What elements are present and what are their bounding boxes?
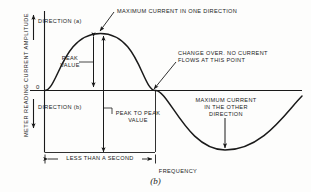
change-over-leader <box>154 62 176 89</box>
peak-value-label: PEAK VALUE <box>55 55 85 69</box>
max-current-other-direction-label: MAXIMUM CURRENT IN THE OTHER DIRECTION <box>186 97 266 117</box>
x-axis-label: FREQUENCY <box>150 168 206 175</box>
waveform-diagram <box>0 0 311 192</box>
less-than-a-second-label: LESS THAN A SECOND <box>58 155 142 162</box>
direction-a-label: DIRECTION (a) <box>38 18 82 25</box>
origin-zero-label: 0 <box>36 84 39 90</box>
figure-caption: (b) <box>0 176 311 186</box>
change-over-label: CHANGE OVER. NO CURRENT FLOWS AT THIS PO… <box>178 50 268 64</box>
max-current-one-leader <box>100 12 114 31</box>
direction-b-label: DIRECTION (b) <box>38 104 82 111</box>
figure-panel: METER READING CURRENT AMPLITUDE 0 DIRECT… <box>0 0 311 192</box>
max-current-one-direction-label: MAXIMUM CURRENT IN ONE DIRECTION <box>117 8 237 15</box>
y-axis-label: METER READING CURRENT AMPLITUDE <box>23 5 29 145</box>
peak-to-peak-label: PEAK TO PEAK VALUE <box>110 110 166 124</box>
